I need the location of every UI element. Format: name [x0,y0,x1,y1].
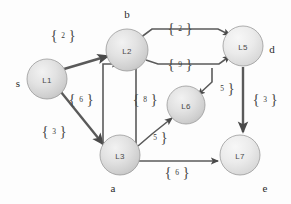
brace-right-icon: } [86,91,93,107]
brace-left-icon: { [50,27,57,43]
brace-right-icon: } [150,91,157,107]
edge-weight-l3-l2: 6 [79,95,83,104]
node-l7-label: L7 [235,152,245,161]
brace-right-icon: } [185,20,192,36]
node-l2[interactable]: L2 [106,29,148,71]
brace-right-icon: } [160,129,167,145]
edge-weight-l3-l6: 5 [153,133,157,142]
brace-right-icon: } [227,80,234,96]
alias-label-b: b [124,8,130,20]
weight-group-l5-l7: { 3 } [252,91,277,107]
edge-weight-l1-l3: 3 [52,127,56,136]
node-l6-label: L6 [181,102,191,111]
brace-left-icon: { [167,20,174,36]
brace-left-icon: { [164,164,171,180]
edge-weight-l2-l3: 8 [143,95,147,104]
node-l5[interactable]: L5 [223,26,263,66]
alias-label-d: d [269,43,275,55]
brace-left-icon: { [167,56,174,72]
brace-right-icon: } [270,91,277,107]
edge-weight-l2-l5-mid: 9 [178,60,182,69]
weight-group-l3-l2: { 6 } [68,91,93,107]
weight-group-l2-l3: { 8 } [132,91,157,107]
brace-right-icon: } [185,56,192,72]
weight-group-l3-l7: { 6 } [164,164,189,180]
node-l2-label: L2 [122,47,132,56]
node-l3[interactable]: L3 [100,135,140,175]
brace-left-icon: { [252,91,259,107]
graph-canvas: { 2 } { 3 } { 6 } { 8 } { 2 } [0,0,291,204]
node-l6[interactable]: L6 [167,86,205,124]
brace-right-icon: } [182,164,189,180]
node-l1-label: L1 [42,76,52,85]
weight-group-l1-l3: { 3 } [41,123,66,139]
brace-left-icon: { [41,123,48,139]
brace-left-icon: { [68,91,75,107]
brace-left-icon: { [132,91,139,107]
alias-label-e: e [263,182,268,194]
edge-weight-l2-l5-top: 2 [178,24,182,33]
brace-right-icon: } [68,27,75,43]
weight-group-l5-l6: 5 } [220,80,234,96]
edge-l1-l2 [64,56,108,69]
alias-label-s: s [16,77,20,89]
edge-weight-l5-l6: 5 [220,84,224,93]
node-l5-label: L5 [238,43,248,52]
edge-weight-l1-l2: 2 [61,31,65,40]
node-l1[interactable]: L1 [27,59,67,99]
weight-group-l2-l5-mid: { 9 } [167,56,192,72]
alias-label-a: a [111,182,116,194]
node-l7[interactable]: L7 [220,135,260,175]
weight-group-l2-l5-top: { 2 } [167,20,192,36]
edge-weight-l5-l7: 3 [263,95,267,104]
brace-right-icon: } [59,123,66,139]
edge-weight-l3-l7: 6 [175,168,179,177]
graph-figure: { 2 } { 3 } { 6 } { 8 } { 2 } [0,0,291,204]
weight-group-l1-l2: { 2 } [50,27,75,43]
node-l3-label: L3 [115,152,125,161]
edge-l5-l6 [198,68,212,95]
